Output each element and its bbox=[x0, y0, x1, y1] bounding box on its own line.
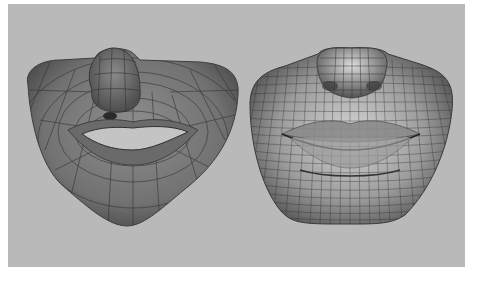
subdivided-mouth-model bbox=[245, 48, 455, 226]
low-poly-mouth-model bbox=[13, 48, 253, 238]
mesh-renders bbox=[0, 0, 477, 283]
